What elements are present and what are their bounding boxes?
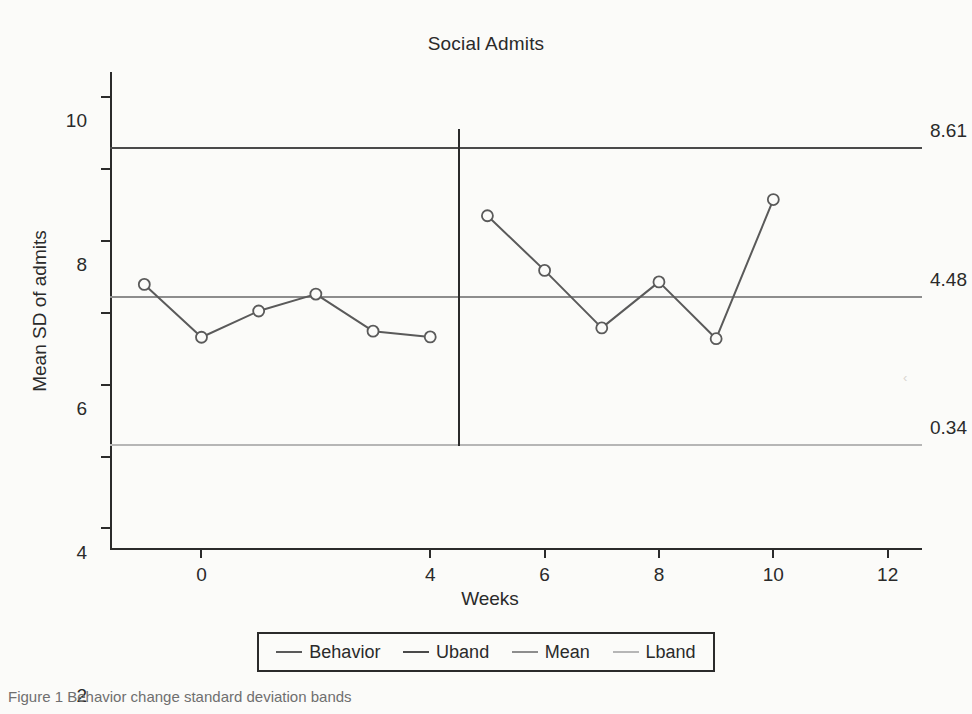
reference-line-label-uband: 8.61	[930, 120, 967, 142]
scan-artifact-mark: ‹	[903, 370, 907, 385]
y-tick-mark: 2	[101, 384, 110, 386]
data-point-marker	[596, 322, 607, 333]
behavior-line-intervention	[487, 200, 773, 339]
x-tick-label: 12	[877, 564, 898, 586]
plot-area: 1086420−2 04681012 8.614.480.34	[110, 72, 922, 550]
y-tick-label: 4	[76, 542, 87, 564]
y-tick-label: 6	[76, 398, 87, 420]
legend-entry-lband: Lband	[613, 642, 696, 663]
data-point-marker	[425, 331, 436, 342]
legend-line-swatch	[276, 651, 302, 653]
behavior-series-plot	[110, 72, 922, 550]
chart-title: Social Admits	[0, 33, 972, 55]
page-caption: Figure 1 Behavior change standard deviat…	[8, 688, 508, 705]
data-point-marker	[310, 289, 321, 300]
y-axis-title: Mean SD of admits	[29, 181, 51, 441]
behavior-line-baseline	[144, 284, 430, 337]
data-point-marker	[653, 276, 664, 287]
chart-figure: Social Admits Mean SD of admits Weeks 10…	[0, 0, 972, 714]
y-tick-mark: 10	[101, 96, 110, 98]
legend-label: Mean	[545, 642, 590, 663]
legend-entry-uband: Uband	[403, 642, 489, 663]
x-tick-label: 4	[425, 564, 436, 586]
legend-line-swatch	[613, 651, 639, 653]
y-tick-mark: 4	[101, 312, 110, 314]
legend-label: Behavior	[309, 642, 380, 663]
data-point-marker	[711, 333, 722, 344]
legend-entry-behavior: Behavior	[276, 642, 380, 663]
y-tick-mark: 6	[101, 240, 110, 242]
x-tick-label: 8	[654, 564, 665, 586]
data-point-marker	[768, 194, 779, 205]
y-tick-label: 10	[66, 110, 87, 132]
legend-entry-mean: Mean	[512, 642, 590, 663]
x-tick-label: 6	[539, 564, 550, 586]
data-point-marker	[196, 332, 207, 343]
x-tick-label: 0	[196, 564, 207, 586]
legend-label: Uband	[436, 642, 489, 663]
legend-line-swatch	[403, 651, 429, 653]
y-tick-mark: 0	[101, 456, 110, 458]
legend-line-swatch	[512, 651, 538, 653]
chart-legend: BehaviorUbandMeanLband	[257, 632, 715, 672]
reference-line-label-lband: 0.34	[930, 417, 967, 439]
x-axis-title: Weeks	[110, 588, 870, 610]
data-point-marker	[368, 326, 379, 337]
legend-label: Lband	[646, 642, 696, 663]
data-point-marker	[539, 265, 550, 276]
y-tick-label: 8	[76, 254, 87, 276]
data-point-marker	[482, 210, 493, 221]
x-tick-label: 10	[763, 564, 784, 586]
y-tick-mark: −2	[101, 527, 110, 529]
data-point-marker	[139, 279, 150, 290]
data-point-marker	[253, 306, 264, 317]
y-tick-mark: 8	[101, 168, 110, 170]
reference-line-label-mean: 4.48	[930, 269, 967, 291]
